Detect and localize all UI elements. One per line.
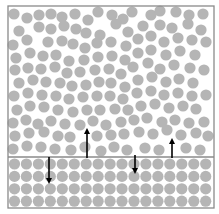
liquid-particle	[92, 6, 103, 17]
liquid-particle	[91, 130, 102, 141]
liquid-particle	[63, 55, 74, 66]
lattice-particle	[93, 183, 104, 194]
liquid-particle	[69, 8, 80, 19]
lattice-particle	[21, 171, 32, 182]
lattice-particle	[152, 158, 163, 169]
liquid-particle	[54, 77, 65, 88]
liquid-particle	[173, 73, 184, 84]
liquid-particle	[38, 101, 49, 112]
lattice-particle	[33, 183, 44, 194]
lattice-particle	[33, 158, 44, 169]
liquid-particle	[128, 114, 139, 125]
liquid-particle	[106, 50, 117, 61]
lattice-particle	[200, 183, 211, 194]
liquid-particle	[146, 71, 157, 82]
liquid-particle	[63, 93, 74, 104]
lattice-particle	[81, 183, 92, 194]
lattice-particle	[116, 183, 127, 194]
liquid-particle	[33, 21, 44, 32]
liquid-particle	[80, 79, 91, 90]
lattice-particle	[45, 183, 56, 194]
lattice-particle	[57, 171, 68, 182]
liquid-particle	[118, 128, 129, 139]
liquid-particle	[105, 77, 116, 88]
liquid-particle	[22, 87, 33, 98]
lattice-particle	[152, 183, 163, 194]
liquid-particle	[200, 36, 211, 47]
liquid-particle	[52, 104, 63, 115]
liquid-particle	[64, 131, 75, 142]
liquid-particle	[52, 130, 63, 141]
lattice-particle	[116, 158, 127, 169]
liquid-particle	[27, 74, 38, 85]
liquid-particle	[23, 127, 34, 138]
liquid-particle	[197, 8, 208, 19]
liquid-particle	[163, 102, 174, 113]
liquid-particle	[187, 77, 198, 88]
liquid-particle	[92, 51, 103, 62]
lattice-particle	[93, 196, 104, 207]
liquid-particle	[45, 8, 56, 19]
lattice-particle	[164, 196, 175, 207]
liquid-particle	[145, 85, 156, 96]
lattice-particle	[128, 171, 139, 182]
liquid-particle	[172, 87, 183, 98]
liquid-particle	[82, 14, 93, 25]
liquid-particle	[49, 143, 60, 154]
liquid-particle	[119, 81, 130, 92]
liquid-particle	[109, 103, 120, 114]
liquid-particle	[65, 144, 76, 155]
lattice-particle	[152, 196, 163, 207]
liquid-particle	[8, 8, 19, 19]
lattice-particle	[45, 196, 56, 207]
liquid-particle	[166, 22, 177, 33]
liquid-particle	[38, 126, 49, 137]
liquid-particle	[91, 90, 102, 101]
liquid-particle	[145, 44, 156, 55]
lattice-particle	[45, 158, 56, 169]
lattice-particle	[21, 183, 32, 194]
liquid-particle	[132, 47, 143, 58]
liquid-particle	[189, 49, 200, 60]
liquid-particle	[93, 76, 104, 87]
lattice-particle	[57, 196, 68, 207]
lattice-particle	[152, 171, 163, 182]
lattice-particle	[200, 196, 211, 207]
liquid-particle	[7, 39, 18, 50]
liquid-particle	[9, 64, 20, 75]
lattice-particle	[69, 171, 80, 182]
liquid-particle	[7, 117, 18, 128]
liquid-particle	[137, 20, 148, 31]
lattice-particle	[9, 171, 20, 182]
lattice-particle	[140, 196, 151, 207]
lattice-particle	[57, 183, 68, 194]
liquid-particle	[13, 77, 24, 88]
lattice-particle	[200, 171, 211, 182]
liquid-particle	[79, 42, 90, 53]
lattice-particle	[105, 171, 116, 182]
lattice-particle	[188, 183, 199, 194]
lattice-particle	[93, 158, 104, 169]
liquid-particle	[127, 61, 138, 72]
liquid-particle	[7, 143, 18, 154]
liquid-particle	[59, 118, 70, 129]
liquid-particle	[121, 144, 132, 155]
liquid-particle	[35, 141, 46, 152]
lattice-particle	[188, 171, 199, 182]
liquid-particle	[22, 62, 33, 73]
lattice-particle	[81, 196, 92, 207]
lattice-particle	[105, 196, 116, 207]
liquid-particle	[142, 57, 153, 68]
liquid-particle	[20, 114, 31, 125]
lattice-particle	[9, 196, 20, 207]
liquid-particle	[161, 124, 172, 135]
liquid-particle	[174, 45, 185, 56]
lattice-particle	[164, 171, 175, 182]
liquid-particle	[78, 54, 89, 65]
liquid-particle	[35, 63, 46, 74]
liquid-particle	[186, 34, 197, 45]
liquid-particle	[67, 106, 78, 117]
liquid-particle	[80, 27, 91, 38]
liquid-particle	[94, 104, 105, 115]
liquid-region	[7, 5, 213, 156]
